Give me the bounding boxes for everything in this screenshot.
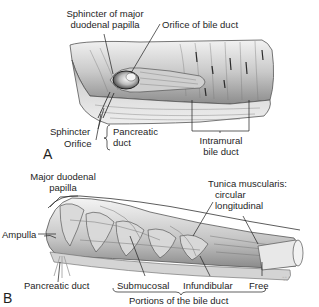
- label-line-2: duct: [113, 137, 158, 148]
- label-line-1: Tunica muscularis:: [208, 178, 287, 189]
- panel-letter-b: B: [3, 290, 12, 306]
- label-sphincter: Sphincter: [50, 126, 90, 137]
- label-line-2: bile duct: [188, 146, 254, 157]
- label-portions-of-bile-duct: Portions of the bile duct: [129, 295, 228, 306]
- label-free: Free: [249, 280, 269, 291]
- artist-signature: ~~ ~ ~~: [282, 276, 291, 282]
- label-orifice-bile-duct: Orifice of bile duct: [162, 19, 238, 30]
- label-line-1: Major duodenal: [24, 171, 102, 182]
- label-line-2: papilla: [24, 182, 102, 193]
- label-line-2: duodenal papilla: [60, 19, 150, 30]
- label-orifice: Orifice: [64, 138, 91, 149]
- panel-a-duodenum-wall: [70, 40, 274, 124]
- panel-letter-a: A: [43, 146, 52, 162]
- label-submucosal: Submucosal: [117, 280, 169, 291]
- label-sphincter-major-papilla: Sphincter of major duodenal papilla: [60, 8, 150, 30]
- label-line-1: Pancreatic: [113, 126, 158, 137]
- label-line-1: Sphincter of major: [60, 8, 150, 19]
- label-pancreatic-duct-a: Pancreatic duct: [113, 126, 158, 148]
- label-ampulla: Ampulla: [2, 229, 36, 240]
- label-line-2: circular: [208, 189, 287, 200]
- label-line-1: Intramural: [188, 135, 254, 146]
- label-tunica-muscularis: Tunica muscularis: circular longitudinal: [208, 178, 287, 211]
- label-intramural-bile-duct: Intramural bile duct: [188, 135, 254, 157]
- label-pancreatic-duct-b: Pancreatic duct: [24, 280, 89, 291]
- label-line-3: longitudinal: [208, 200, 287, 211]
- label-major-duodenal-papilla: Major duodenal papilla: [24, 171, 102, 193]
- label-infundibular: Infundibular: [183, 280, 233, 291]
